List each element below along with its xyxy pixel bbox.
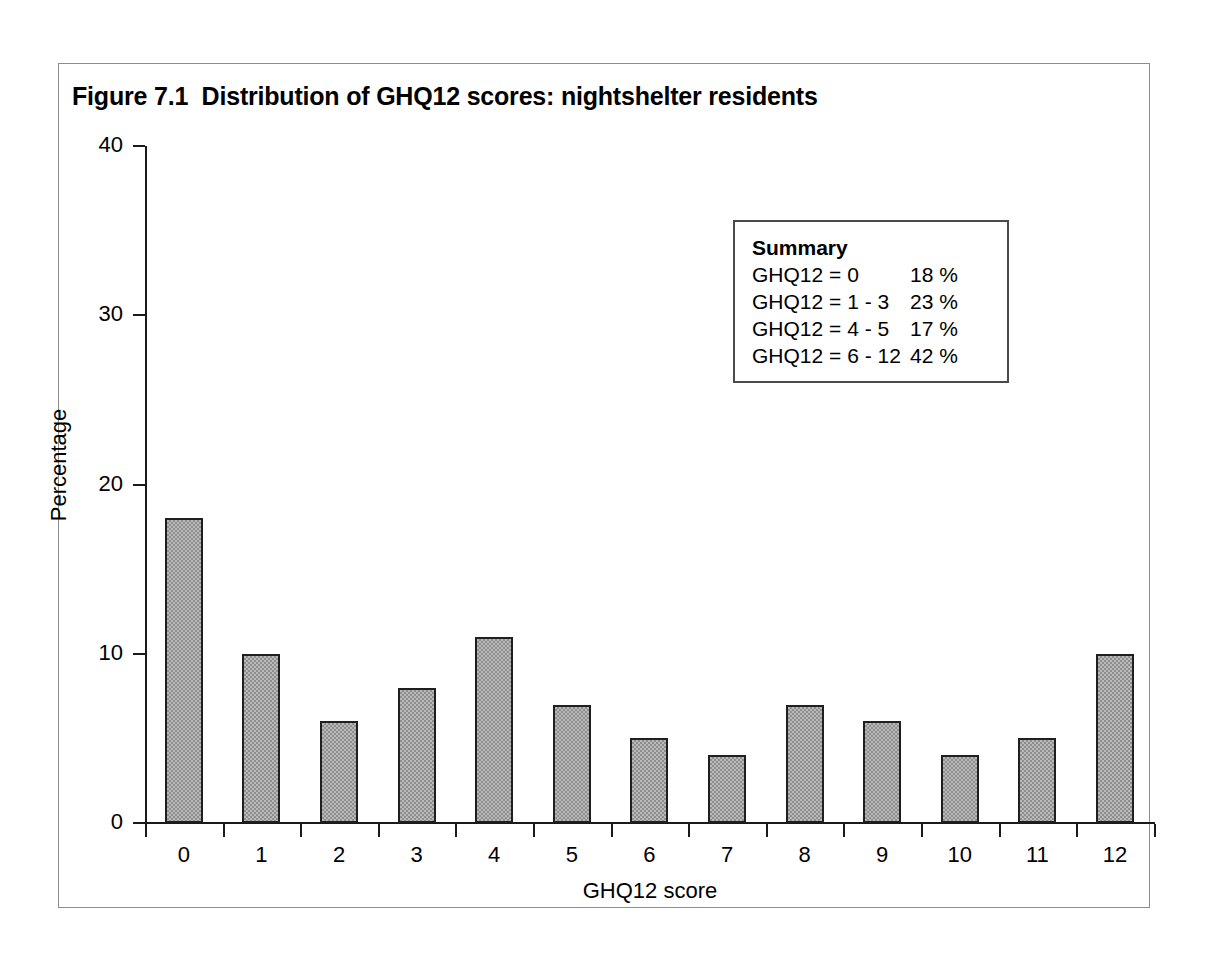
summary-row-value: 18 % (910, 261, 958, 288)
y-tick-label-0: 0 (63, 811, 123, 833)
x-tick-label-7: 7 (697, 843, 757, 867)
x-tick-4 (455, 824, 457, 837)
bar-9 (863, 721, 901, 823)
x-tick-7 (688, 824, 690, 837)
bar-4 (475, 637, 513, 823)
summary-row-value: 17 % (910, 315, 958, 342)
x-tick-label-12: 12 (1085, 843, 1145, 867)
y-tick-label-10: 10 (63, 642, 123, 664)
bar-12 (1096, 654, 1134, 823)
y-tick-label-40: 40 (63, 134, 123, 156)
x-tick-label-1: 1 (231, 843, 291, 867)
summary-box: Summary GHQ12 = 018 %GHQ12 = 1 - 323 %GH… (733, 220, 1009, 383)
x-tick-label-5: 5 (542, 843, 602, 867)
x-tick-label-3: 3 (387, 843, 447, 867)
bar-10 (941, 755, 979, 823)
x-tick-11 (999, 824, 1001, 837)
summary-row-value: 23 % (910, 288, 958, 315)
summary-row-label: GHQ12 = 1 - 3 (752, 288, 910, 315)
bar-7 (708, 755, 746, 823)
x-tick-6 (611, 824, 613, 837)
y-tick-label-20: 20 (63, 473, 123, 495)
summary-row-value: 42 % (910, 342, 958, 369)
summary-row: GHQ12 = 018 % (752, 261, 1007, 288)
summary-row: GHQ12 = 4 - 517 % (752, 315, 1007, 342)
x-tick-0 (145, 824, 147, 837)
x-tick-label-9: 9 (852, 843, 912, 867)
bar-6 (630, 738, 668, 823)
x-tick-end (1154, 824, 1156, 837)
bar-1 (242, 654, 280, 823)
figure-frame (58, 63, 1150, 908)
bar-3 (398, 688, 436, 823)
x-tick-8 (766, 824, 768, 837)
x-tick-label-8: 8 (775, 843, 835, 867)
y-axis-line (145, 146, 147, 825)
summary-heading: Summary (752, 234, 1007, 261)
bar-8 (786, 705, 824, 823)
x-tick-2 (300, 824, 302, 837)
x-axis-title: GHQ12 score (145, 878, 1155, 904)
x-tick-label-2: 2 (309, 843, 369, 867)
summary-row: GHQ12 = 1 - 323 % (752, 288, 1007, 315)
bar-0 (165, 518, 203, 823)
y-tick-10 (133, 653, 145, 655)
x-tick-label-4: 4 (464, 843, 524, 867)
x-tick-1 (223, 824, 225, 837)
x-tick-3 (378, 824, 380, 837)
summary-row: GHQ12 = 6 - 1242 % (752, 342, 1007, 369)
summary-rows: GHQ12 = 018 %GHQ12 = 1 - 323 %GHQ12 = 4 … (752, 261, 1007, 369)
y-tick-label-30: 30 (63, 303, 123, 325)
y-tick-20 (133, 484, 145, 486)
bar-2 (320, 721, 358, 823)
x-tick-label-0: 0 (154, 843, 214, 867)
bar-5 (553, 705, 591, 823)
x-tick-10 (921, 824, 923, 837)
summary-row-label: GHQ12 = 0 (752, 261, 910, 288)
bar-11 (1018, 738, 1056, 823)
y-tick-0 (133, 822, 145, 824)
x-tick-label-11: 11 (1007, 843, 1067, 867)
y-tick-40 (133, 145, 145, 147)
x-tick-5 (533, 824, 535, 837)
x-tick-label-6: 6 (619, 843, 679, 867)
x-tick-9 (843, 824, 845, 837)
x-tick-label-10: 10 (930, 843, 990, 867)
y-tick-30 (133, 314, 145, 316)
x-tick-12 (1076, 824, 1078, 837)
summary-row-label: GHQ12 = 6 - 12 (752, 342, 910, 369)
y-axis-title: Percentage (46, 390, 72, 540)
page-title: Figure 7.1 Distribution of GHQ12 scores:… (72, 82, 818, 111)
summary-row-label: GHQ12 = 4 - 5 (752, 315, 910, 342)
